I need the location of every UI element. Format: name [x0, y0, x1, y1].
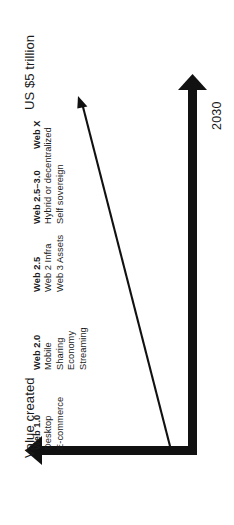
- time-axis-arrowhead-icon: [178, 74, 207, 90]
- era-heading: Web X: [32, 121, 43, 150]
- growth-trend-arrowhead-icon: [77, 96, 87, 108]
- era-label-web-2-5: Web 2.5 Web 2 Infra Web 3 Assets: [32, 235, 66, 292]
- era-heading: Web 2.5: [32, 235, 43, 292]
- era-label-web-2-0: Web 2.0 Mobile Sharing Economy Streaming: [32, 327, 89, 370]
- era-label-web-x: Web X: [32, 121, 43, 150]
- era-detail: Hybrid or decentralized: [43, 127, 54, 224]
- era-detail: Web 2 Infra: [43, 235, 54, 292]
- era-detail: E-commerce: [55, 397, 66, 450]
- growth-trend-line: [82, 103, 171, 450]
- era-detail: Desktop: [43, 397, 54, 450]
- era-detail: Sharing: [55, 327, 66, 370]
- time-axis-group: [178, 74, 207, 455]
- value-axis-max-annotation: US $5 trillion: [22, 35, 37, 110]
- era-detail: Mobile: [43, 327, 54, 370]
- era-detail: Economy: [66, 327, 77, 370]
- era-label-web-1-0: Web 1.0 Desktop E-commerce: [32, 397, 66, 450]
- era-detail: Streaming: [78, 327, 89, 370]
- era-heading: Web 1.0: [32, 397, 43, 450]
- value-created-timeline-chart: Value created US $5 trillion 2030 Web 1.…: [0, 0, 234, 525]
- time-axis-bar: [188, 88, 197, 455]
- growth-trend-line-group: [77, 96, 171, 450]
- era-detail: Self sovereign: [55, 127, 66, 224]
- era-detail: Web 3 Assets: [55, 235, 66, 292]
- era-heading: Web 2.0: [32, 327, 43, 370]
- time-axis-end-annotation: 2030: [210, 101, 225, 130]
